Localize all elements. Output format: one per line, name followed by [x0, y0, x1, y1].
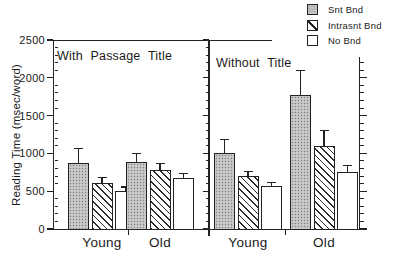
panel-title-without-title: Without Title: [216, 56, 291, 70]
gray-stipple-swatch-icon: [307, 4, 318, 15]
y-minor-tick-right: [360, 85, 364, 86]
error-bar-line: [136, 153, 137, 162]
bar-snt-bnd-old-panel2: [290, 95, 311, 231]
y-minor-tick-left: [55, 198, 59, 199]
error-bar-line: [247, 171, 248, 176]
y-minor-tick-right: [360, 130, 364, 131]
error-bar-cap: [267, 182, 276, 183]
y-minor-tick-right: [360, 123, 364, 124]
y-major-tick-right: [359, 77, 367, 78]
error-bar-cap: [220, 139, 229, 140]
error-bar-line: [300, 70, 301, 95]
y-minor-tick-right: [360, 213, 364, 214]
y-minor-tick-left: [55, 145, 59, 146]
legend-item-snt-bnd: Snt Bnd: [307, 4, 403, 15]
error-bar-cap: [320, 130, 329, 131]
panel-title-with-passage-title: With Passage Title: [57, 49, 172, 63]
error-bar-cap: [74, 148, 83, 149]
y-minor-tick-right: [360, 221, 364, 222]
figure: Reading Time (msec/word) With Passage Ti…: [0, 0, 403, 266]
error-bar-line: [183, 174, 184, 178]
y-minor-tick-left: [55, 138, 59, 139]
diagonal-hatch-swatch-icon: [307, 20, 318, 31]
y-minor-tick-right: [360, 108, 364, 109]
y-tick-label: 1500: [11, 110, 45, 122]
error-bar-line: [323, 131, 324, 146]
y-minor-tick-left: [55, 176, 59, 177]
white-swatch-icon: [307, 35, 318, 46]
error-bar-line: [159, 163, 160, 170]
y-major-tick-right: [359, 153, 367, 154]
bar-intrasnt-bnd-old-panel2: [314, 146, 335, 231]
y-minor-tick-right: [360, 176, 364, 177]
bar-no-bnd-young-panel2: [261, 186, 282, 231]
bar-snt-bnd-young-panel1: [68, 163, 89, 231]
y-minor-tick-right: [360, 183, 364, 184]
y-minor-tick-left: [55, 108, 59, 109]
y-major-tick-left: [47, 115, 53, 116]
panel-divider: [208, 40, 209, 236]
y-major-tick-left: [47, 77, 53, 78]
y-minor-tick-right: [360, 100, 364, 101]
y-minor-tick-left: [55, 160, 59, 161]
error-bar-line: [78, 148, 79, 162]
category-label-old: Old: [120, 235, 200, 250]
bar-snt-bnd-old-panel1: [126, 162, 147, 230]
bar-no-bnd-old-panel2: [337, 172, 358, 231]
y-minor-tick-left: [55, 130, 59, 131]
y-minor-tick-left: [55, 92, 59, 93]
y-minor-tick-left: [55, 123, 59, 124]
y-minor-tick-right: [360, 168, 364, 169]
y-tick-label: 0: [11, 223, 45, 235]
legend-item-no-bnd: No Bnd: [307, 35, 403, 46]
y-minor-tick-right: [360, 92, 364, 93]
y-tick-label: 2000: [11, 72, 45, 84]
category-label-old: Old: [284, 235, 364, 250]
bar-no-bnd-old-panel1: [173, 178, 194, 231]
legend-label-snt-bnd: Snt Bnd: [328, 4, 363, 15]
bar-intrasnt-bnd-young-panel2: [238, 176, 259, 230]
legend-item-intrasnt-bnd: Intrasnt Bnd: [307, 20, 403, 31]
y-minor-tick-left: [55, 70, 59, 71]
y-minor-tick-right: [360, 138, 364, 139]
y-major-tick-left: [47, 153, 53, 154]
y-tick-label: 2500: [11, 34, 45, 46]
error-bar-cap: [179, 173, 188, 174]
y-major-tick-right: [359, 115, 367, 116]
error-bar-line: [224, 140, 225, 154]
error-bar-cap: [98, 177, 107, 178]
y-minor-tick-left: [55, 213, 59, 214]
y-tick-label: 500: [11, 185, 45, 197]
y-minor-tick-left: [55, 100, 59, 101]
error-bar-cap: [244, 171, 253, 172]
y-major-tick-left: [47, 228, 53, 229]
bar-snt-bnd-young-panel2: [214, 153, 235, 230]
y-minor-tick-left: [55, 221, 59, 222]
y-minor-tick-left: [55, 47, 59, 48]
y-major-tick-right: [359, 191, 367, 192]
error-bar-cap: [343, 165, 352, 166]
error-bar-cap: [132, 153, 141, 154]
y-minor-tick-right: [360, 70, 364, 71]
error-bar-cap: [156, 163, 165, 164]
y-minor-tick-left: [55, 85, 59, 86]
legend-label-intrasnt-bnd: Intrasnt Bnd: [328, 20, 382, 31]
y-minor-tick-right: [360, 62, 364, 63]
y-minor-tick-left: [55, 206, 59, 207]
y-major-tick-left: [47, 191, 53, 192]
error-bar-cap: [296, 70, 305, 71]
y-minor-tick-right: [360, 160, 364, 161]
y-minor-tick-right: [360, 206, 364, 207]
category-label-young: Young: [208, 235, 288, 250]
y-major-tick-right: [359, 228, 367, 229]
bar-intrasnt-bnd-young-panel1: [92, 183, 113, 231]
y-major-tick-left: [47, 39, 53, 40]
y-minor-tick-left: [55, 183, 59, 184]
legend-label-no-bnd: No Bnd: [328, 35, 361, 46]
y-minor-tick-right: [360, 198, 364, 199]
y-tick-label: 1000: [11, 147, 45, 159]
bar-intrasnt-bnd-old-panel1: [150, 170, 171, 230]
legend: Snt Bnd Intrasnt Bnd No Bnd: [272, 0, 403, 57]
y-minor-tick-left: [55, 168, 59, 169]
y-minor-tick-right: [360, 145, 364, 146]
